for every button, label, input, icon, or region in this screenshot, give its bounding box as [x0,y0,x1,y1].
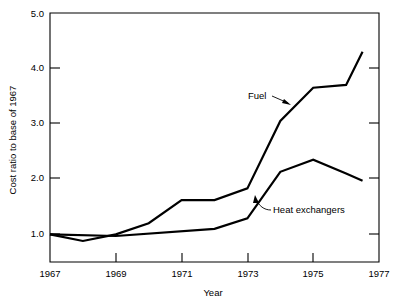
chart-figure: 1.0 2.0 3.0 4.0 5.0 Cost ratio to base o… [0,0,402,303]
series-label-fuel: Fuel [248,90,266,101]
x-tick-label-1967: 1967 [39,268,60,279]
y-axis-tick-labels: 1.0 2.0 3.0 4.0 5.0 [31,8,44,239]
annotation-heat-exchangers: Heat exchangers [253,195,345,215]
y-axis-title: Cost ratio to base of 1967 [7,86,18,195]
x-tick-label-1971: 1971 [171,268,192,279]
x-axis-title: Year [203,287,222,298]
annotation-fuel: Fuel [248,90,291,105]
y-tick-label-5: 5.0 [31,8,44,19]
y-tick-label-3: 3.0 [31,117,44,128]
x-tick-label-1977: 1977 [368,268,389,279]
x-tick-label-1975: 1975 [302,268,323,279]
plot-frame [50,13,379,262]
x-axis-tick-labels: 1967 1969 1971 1973 1975 1977 [39,268,389,279]
x-tick-label-1969: 1969 [105,268,126,279]
x-tick-label-1973: 1973 [237,268,258,279]
y-axis-title-group: Cost ratio to base of 1967 [7,86,18,195]
y-tick-label-2: 2.0 [31,172,44,183]
series-line-heat-exchangers [50,160,363,236]
y-tick-label-4: 4.0 [31,62,44,73]
heat-exchangers-arrowhead [253,195,259,203]
fuel-arrowhead [282,99,291,105]
y-tick-label-1: 1.0 [31,228,44,239]
x-axis-ticks [116,253,313,262]
line-chart: 1.0 2.0 3.0 4.0 5.0 Cost ratio to base o… [0,0,402,303]
series-label-heat-exchangers: Heat exchangers [273,204,345,215]
